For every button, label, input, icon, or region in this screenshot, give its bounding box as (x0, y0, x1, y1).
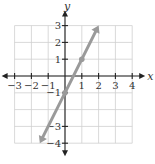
x-axis-arrow-right (139, 73, 145, 79)
y-tick-label: −4 (46, 138, 61, 149)
y-axis-arrow-down (62, 150, 68, 156)
data-point (79, 56, 85, 62)
x-axis-label: x (147, 70, 154, 83)
x-axis-arrow-left (2, 73, 8, 79)
y-tick-label: 1 (55, 54, 61, 65)
y-tick-label: −1 (46, 87, 61, 98)
y-axis-label: y (63, 0, 71, 13)
line-chart: −3−2−11234−4−3−1123 x y (0, 0, 155, 164)
x-tick-label: 2 (95, 80, 101, 91)
x-tick-label: 4 (129, 80, 135, 91)
y-tick-label: 2 (55, 37, 61, 48)
data-point (62, 90, 68, 96)
ticks: −3−2−11234−4−3−1123 (7, 20, 135, 149)
y-tick-label: 3 (55, 20, 61, 31)
x-tick-label: −3 (7, 80, 22, 91)
x-tick-label: −2 (24, 80, 39, 91)
x-tick-label: 3 (112, 80, 118, 91)
x-tick-label: 1 (79, 80, 85, 91)
